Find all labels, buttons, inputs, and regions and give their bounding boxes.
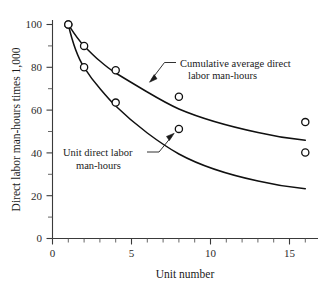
x-axis-tick-labels: 0 5 10 15 [50,247,296,259]
cumulative-average-annotation: Cumulative average direct labor man-hour… [150,58,291,83]
data-point-marker [302,149,309,156]
chart-canvas: 0 20 40 60 80 100 [0,0,326,296]
x-axis-minor-ticks [68,239,305,243]
cumulative-average-arrow-head [150,75,158,83]
x-tick-label-15: 15 [284,247,296,259]
x-axis-title: Unit number [156,268,215,280]
series-cumulative-average [65,21,309,140]
cumulative-average-label-line1: Cumulative average direct [180,58,291,69]
learning-curve-figure: 0 20 40 60 80 100 [0,0,326,296]
x-tick-label-0: 0 [50,247,56,259]
data-point-marker [175,125,182,132]
y-tick-label-0: 0 [37,232,43,244]
y-axis-title: Direct labor man-hours times 1,000 [10,47,23,211]
unit-direct-labor-arrow-head [167,133,175,140]
y-tick-label-100: 100 [26,18,43,30]
unit-direct-labor-annotation: Unit direct labor man-hours [63,133,174,170]
axes [53,20,319,239]
unit-direct-labor-label-line1: Unit direct labor [63,147,133,158]
data-point-marker [175,93,182,100]
unit-direct-labor-label-line2: man-hours [76,160,121,171]
data-point-marker [81,64,88,71]
data-point-marker [65,21,72,28]
y-axis-tick-labels: 0 20 40 60 80 100 [26,18,43,244]
y-axis-minor-ticks [48,46,53,217]
data-point-marker [112,67,119,74]
x-axis-major-ticks [53,239,290,245]
cumulative-average-curve [68,25,305,141]
y-tick-label-60: 60 [31,104,43,116]
data-point-marker [302,119,309,126]
data-point-marker [81,42,88,49]
x-tick-label-10: 10 [205,247,217,259]
y-tick-label-20: 20 [31,190,43,202]
y-tick-label-80: 80 [31,61,43,73]
data-point-marker [112,99,119,106]
cumulative-average-label-line2: labor man-hours [188,70,257,81]
x-tick-label-5: 5 [129,247,135,259]
y-tick-label-40: 40 [31,147,43,159]
